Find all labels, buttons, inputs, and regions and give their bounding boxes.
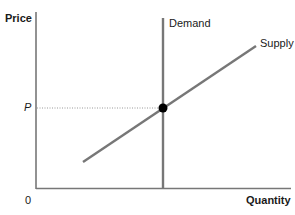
origin-label: 0 [25,195,31,206]
supply-label: Supply [260,38,294,49]
y-axis-label: Price [5,13,32,24]
price-marker-label: P [24,102,31,113]
x-axis-label: Quantity [246,195,291,206]
supply-curve [83,46,256,162]
demand-label: Demand [169,18,211,29]
equilibrium-point [159,104,168,113]
supply-demand-diagram [0,0,295,215]
